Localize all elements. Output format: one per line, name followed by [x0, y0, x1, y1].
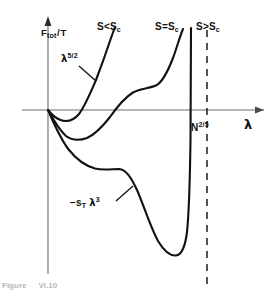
annotation-n25-exponent: 2/5 [198, 121, 208, 128]
annotation-s-eq-subscript: c [175, 26, 179, 33]
y-axis-label-denominator: T [60, 27, 66, 38]
curve-s-equal-sc [48, 29, 183, 140]
annotation-s-gt-lead: S [196, 21, 203, 32]
y-axis [45, 16, 52, 274]
y-axis-label: Ftot/T [41, 28, 66, 39]
figure-caption-word: Figure [2, 281, 26, 290]
y-axis-arrow [45, 16, 52, 26]
annotation-s-gt-symbol: S [209, 21, 216, 32]
y-axis-label-subscript: tot [47, 32, 57, 39]
annotation-stl3-subscript: T [82, 202, 86, 209]
annotation-s-lt-subscript: c [117, 26, 121, 33]
annotation-s-lt-symbol: S [110, 21, 117, 32]
leader-line-stlambda3 [116, 186, 133, 201]
figure-caption-number: VI.10 [38, 281, 57, 290]
annotation-stl3-exponent: 3 [96, 196, 100, 203]
figure-caption: FigureVI.10 [2, 281, 57, 290]
annotation-lambda-five-halves: λ5/2 [61, 52, 78, 64]
plot-canvas [0, 0, 276, 292]
annotation-s-greater-than-sc: S>Sc [196, 22, 220, 33]
annotation-n-two-fifths: N2/5 [191, 121, 209, 133]
annotation-n25-base: N [191, 122, 198, 133]
curve-s-less-than-sc [48, 27, 115, 121]
annotation-s-eq-lead: S [155, 21, 162, 32]
annotation-minus-st-lambda-cubed: −sTλ3 [70, 196, 100, 209]
annotation-lambda52-exponent: 5/2 [68, 52, 78, 59]
leader-line-lambda52 [79, 66, 96, 81]
x-axis [22, 107, 264, 114]
x-axis-label: λ [244, 118, 252, 131]
annotation-s-eq-symbol: S [168, 21, 175, 32]
annotation-s-gt-subscript: c [216, 26, 220, 33]
annotation-s-less-than-sc: S<Sc [97, 22, 121, 33]
figure-root: Ftot/T λ S<Sc S=Sc S>Sc λ5/2 N2/5 −sTλ3 … [0, 0, 276, 292]
annotation-s-equal-sc: S=Sc [155, 22, 179, 33]
x-axis-arrow [255, 107, 264, 114]
annotation-s-lt-lead: S [97, 21, 104, 32]
